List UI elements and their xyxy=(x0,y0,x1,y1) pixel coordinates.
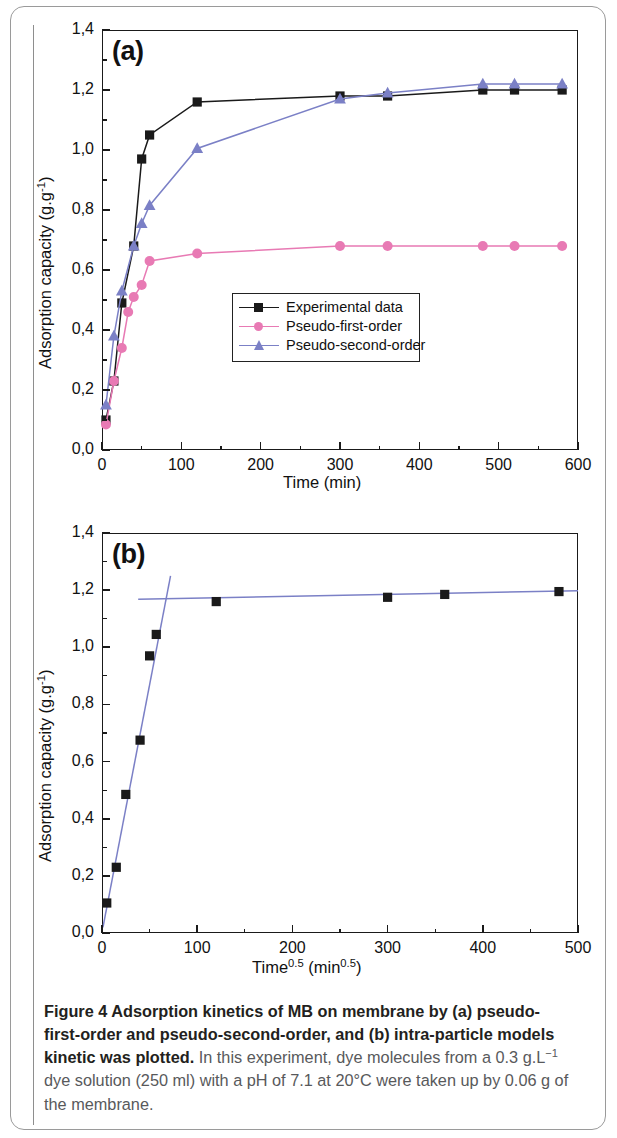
x-major-tick xyxy=(339,442,341,450)
x-major-tick xyxy=(181,442,183,450)
legend-label-pseudo-first-order: Pseudo-first-order xyxy=(286,319,402,334)
y-major-tick xyxy=(102,932,110,934)
x-axis-title-b-mid: (min xyxy=(304,958,341,976)
y-major-tick xyxy=(102,269,110,271)
x-minor-tick xyxy=(435,929,436,934)
data-point-circle xyxy=(109,376,119,386)
y-minor-tick xyxy=(102,618,107,619)
x-tick-label: 300 xyxy=(310,456,370,474)
x-axis-title-b: Time0.5 (min0.5) xyxy=(252,958,361,977)
x-major-tick xyxy=(482,925,484,933)
x-major-tick xyxy=(101,925,103,933)
data-point-circle xyxy=(383,241,393,251)
x-axis-title-b-sup2: 0.5 xyxy=(340,957,356,969)
y-axis-title-a-base: Adsorption capacity (g.g xyxy=(36,192,54,369)
x-tick-label: 300 xyxy=(358,939,418,957)
y-major-tick xyxy=(102,149,110,151)
y-tick-label: 0,4 xyxy=(50,320,94,338)
data-point-square xyxy=(137,154,146,163)
x-tick-label: 400 xyxy=(389,456,449,474)
legend-label-pseudo-second-order: Pseudo-second-order xyxy=(286,338,425,353)
x-minor-tick xyxy=(149,929,150,934)
data-point-square xyxy=(554,587,563,596)
legend-swatch-triangle-icon xyxy=(239,339,279,353)
chart-panel-b: (b) Time0.5 (min0.5) Adsorption capacity… xyxy=(0,500,617,1000)
x-minor-tick xyxy=(300,446,301,451)
y-minor-tick xyxy=(102,790,107,791)
data-point-circle xyxy=(137,280,147,290)
data-point-square xyxy=(212,597,221,606)
y-major-tick xyxy=(102,209,110,211)
y-major-tick xyxy=(102,646,110,648)
x-tick-label: 500 xyxy=(548,939,608,957)
y-minor-tick xyxy=(102,561,107,562)
y-minor-tick xyxy=(102,732,107,733)
y-major-tick xyxy=(102,389,110,391)
x-major-tick xyxy=(292,925,294,933)
y-major-tick xyxy=(102,818,110,820)
y-major-tick xyxy=(102,449,110,451)
y-major-tick xyxy=(102,89,110,91)
x-major-tick xyxy=(260,442,262,450)
x-tick-label: 200 xyxy=(262,939,322,957)
data-point-square xyxy=(152,630,161,639)
x-major-tick xyxy=(196,925,198,933)
y-tick-label: 0,8 xyxy=(50,200,94,218)
x-axis-title-b-base: Time xyxy=(252,958,288,976)
y-axis-title-b-tail: ) xyxy=(36,670,54,676)
x-major-tick xyxy=(498,442,500,450)
y-tick-label: 0,2 xyxy=(50,866,94,884)
data-point-circle xyxy=(335,241,345,251)
y-major-tick xyxy=(102,589,110,591)
data-point-circle xyxy=(510,241,520,251)
data-point-triangle xyxy=(477,78,489,89)
y-minor-tick xyxy=(102,359,107,360)
data-point-triangle xyxy=(509,78,521,89)
data-point-circle xyxy=(117,343,127,353)
y-major-tick xyxy=(102,329,110,331)
y-tick-label: 0,4 xyxy=(50,809,94,827)
series-line xyxy=(106,90,562,420)
y-minor-tick xyxy=(102,59,107,60)
y-axis-title-b-sup: -1 xyxy=(35,675,47,685)
data-point-circle xyxy=(478,241,488,251)
y-tick-label: 1,2 xyxy=(50,80,94,98)
x-axis-title-b-tail: ) xyxy=(356,958,362,976)
data-point-square xyxy=(112,863,121,872)
data-point-square xyxy=(145,130,154,139)
figure-caption: Figure 4 Adsorption kinetics of MB on me… xyxy=(44,1000,572,1116)
data-point-square xyxy=(145,651,154,660)
x-major-tick xyxy=(577,442,579,450)
data-point-square xyxy=(440,590,449,599)
y-axis-title-a-sup: -1 xyxy=(35,182,47,192)
fit-line xyxy=(138,591,578,600)
x-tick-label: 0 xyxy=(72,939,132,957)
y-major-tick xyxy=(102,704,110,706)
legend-item-experimental: Experimental data xyxy=(239,298,412,317)
y-tick-label: 1,0 xyxy=(50,637,94,655)
y-minor-tick xyxy=(102,419,107,420)
data-point-square xyxy=(135,736,144,745)
legend-label-experimental: Experimental data xyxy=(286,300,403,315)
x-major-tick xyxy=(387,925,389,933)
fit-line xyxy=(103,576,171,927)
x-minor-tick xyxy=(458,446,459,451)
y-major-tick xyxy=(102,875,110,877)
x-minor-tick xyxy=(220,446,221,451)
y-minor-tick xyxy=(102,675,107,676)
x-tick-label: 200 xyxy=(231,456,291,474)
y-minor-tick xyxy=(102,847,107,848)
x-tick-label: 400 xyxy=(453,939,513,957)
y-tick-label: 0,6 xyxy=(50,752,94,770)
legend-swatch-square-icon xyxy=(239,301,279,315)
x-tick-label: 100 xyxy=(167,939,227,957)
y-tick-label: 0,8 xyxy=(50,694,94,712)
x-minor-tick xyxy=(379,446,380,451)
data-point-circle xyxy=(101,420,111,430)
y-major-tick xyxy=(102,29,110,31)
data-point-circle xyxy=(557,241,567,251)
legend-item-pseudo-first-order: Pseudo-first-order xyxy=(239,317,412,336)
y-minor-tick xyxy=(102,299,107,300)
y-tick-label: 1,0 xyxy=(50,140,94,158)
x-minor-tick xyxy=(530,929,531,934)
